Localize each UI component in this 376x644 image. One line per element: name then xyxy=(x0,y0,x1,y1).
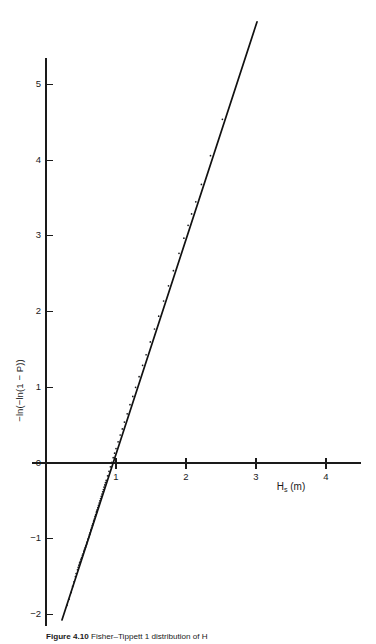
data-point xyxy=(90,529,92,531)
data-point xyxy=(80,558,82,560)
data-point xyxy=(100,498,102,500)
data-point xyxy=(124,421,126,423)
y-axis-tick-label: 2 xyxy=(36,305,41,316)
data-point xyxy=(79,561,81,563)
figure-caption-body: Fisher–Tippett 1 distribution of H xyxy=(91,632,208,641)
data-point xyxy=(195,201,197,203)
data-point xyxy=(178,252,180,254)
data-point xyxy=(83,550,85,552)
data-point xyxy=(86,541,88,543)
data-point xyxy=(73,581,75,583)
data-point xyxy=(85,545,87,547)
figure-caption: Figure 4.10 Fisher–Tippett 1 distributio… xyxy=(46,631,372,642)
axes-group xyxy=(32,58,361,626)
data-point xyxy=(93,520,95,522)
data-point xyxy=(126,413,128,415)
data-point xyxy=(149,341,151,343)
data-point xyxy=(86,543,88,545)
data-point xyxy=(173,270,175,272)
data-point xyxy=(88,536,90,538)
data-point xyxy=(187,224,189,226)
data-point xyxy=(96,509,98,511)
data-point xyxy=(75,573,77,575)
data-point xyxy=(77,567,79,569)
data-point xyxy=(119,434,121,436)
data-point xyxy=(121,428,123,430)
data-point xyxy=(108,470,110,472)
data-point xyxy=(210,155,212,157)
y-axis-tick-label: 3 xyxy=(36,229,41,240)
data-point xyxy=(88,538,90,540)
data-point xyxy=(110,466,112,468)
data-point xyxy=(104,484,106,486)
data-point xyxy=(77,569,79,571)
data-point xyxy=(101,493,103,495)
data-point xyxy=(79,562,81,564)
data-point xyxy=(89,533,91,535)
data-point xyxy=(81,557,83,559)
data-point xyxy=(102,491,104,493)
scatter-plot: 1234543210−1−2 Hs (m) xyxy=(0,0,376,644)
data-point xyxy=(183,237,185,239)
data-point xyxy=(222,118,224,120)
y-axis-tick-label: −1 xyxy=(30,532,41,543)
y-axis-tick-label: 4 xyxy=(36,154,41,165)
data-point xyxy=(105,482,107,484)
data-point xyxy=(95,515,97,517)
data-point xyxy=(163,300,165,302)
data-point xyxy=(89,532,91,534)
data-point xyxy=(98,505,100,507)
y-axis-tick-label: 5 xyxy=(36,78,41,89)
data-point xyxy=(82,555,84,557)
data-point xyxy=(92,523,94,525)
y-axis-tick-label: 1 xyxy=(36,381,41,392)
data-point xyxy=(145,354,147,356)
x-axis-tick-label: 1 xyxy=(113,471,118,482)
y-axis-tick-label: −2 xyxy=(30,608,41,619)
data-point xyxy=(96,511,98,513)
data-point xyxy=(129,404,131,406)
x-axis-title-group: Hs (m) xyxy=(277,481,306,494)
data-point xyxy=(142,365,144,367)
data-point xyxy=(93,518,95,520)
data-point xyxy=(103,489,105,491)
y-axis-tick-label: 0 xyxy=(36,457,41,468)
figure-container: 1234543210−1−2 Hs (m) −ln(−ln(1 − P)) Fi… xyxy=(0,0,376,644)
data-point xyxy=(191,213,193,215)
data-point xyxy=(78,564,80,566)
data-point xyxy=(68,598,70,600)
data-point xyxy=(95,514,97,516)
data-point xyxy=(132,396,134,398)
data-point xyxy=(135,386,137,388)
data-point xyxy=(105,480,107,482)
x-axis-title: Hs (m) xyxy=(277,481,306,494)
data-point xyxy=(168,285,170,287)
data-point xyxy=(107,475,109,477)
figure-caption-label: Figure 4.10 xyxy=(46,632,89,641)
data-point xyxy=(97,507,99,509)
data-point xyxy=(82,553,84,555)
data-point xyxy=(66,604,68,606)
data-point xyxy=(114,452,116,454)
data-point xyxy=(70,592,72,594)
data-point xyxy=(103,486,105,488)
data-point xyxy=(111,461,113,463)
data-series-group xyxy=(62,22,257,620)
data-point xyxy=(201,184,203,186)
data-point xyxy=(91,527,93,529)
data-point xyxy=(138,376,140,378)
data-point xyxy=(154,328,156,330)
data-point xyxy=(85,546,87,548)
data-point xyxy=(158,315,160,317)
data-point xyxy=(99,500,101,502)
tick-labels-group: 1234543210−1−2 xyxy=(30,78,328,619)
data-point xyxy=(72,586,74,588)
data-point xyxy=(115,448,117,450)
x-axis-tick-label: 3 xyxy=(253,471,258,482)
data-point xyxy=(92,524,94,526)
data-point xyxy=(98,502,100,504)
x-axis-tick-label: 4 xyxy=(323,471,328,482)
x-axis-tick-label: 2 xyxy=(183,471,188,482)
data-point xyxy=(112,457,114,459)
data-point-cloud xyxy=(66,118,223,606)
